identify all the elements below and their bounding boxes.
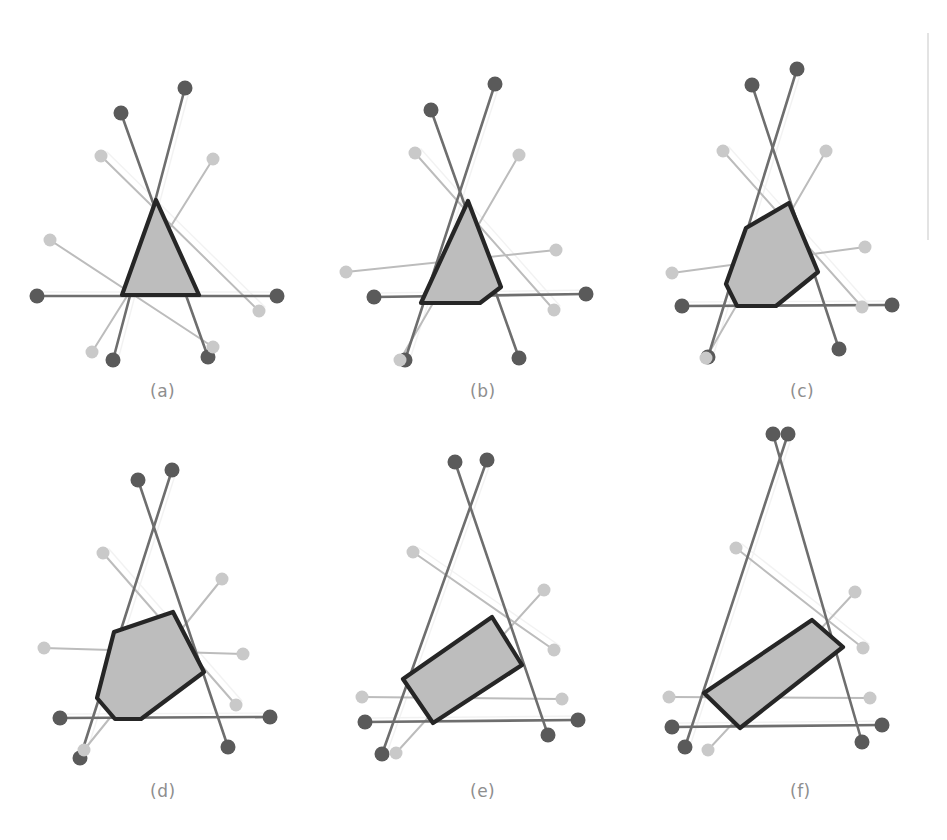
endpoint-dot-dark [745,78,760,93]
endpoint-dot-light [663,691,676,704]
endpoint-dot-dark [448,455,463,470]
panel-caption-b: (b) [470,381,496,401]
endpoint-dot-dark [678,740,693,755]
endpoint-dot-light [538,584,551,597]
endpoint-dot-light [666,267,679,280]
endpoint-dot-light [548,644,561,657]
panel-caption-a: (a) [150,381,175,401]
endpoint-dot-light [857,642,870,655]
endpoint-dot-dark [424,103,439,118]
endpoint-dot-light [513,149,526,162]
multi-panel-geometry-figure [0,0,947,840]
endpoint-dot-light [97,547,110,560]
panel-caption-d: (d) [150,781,176,801]
endpoint-dot-light [216,573,229,586]
endpoint-dot-light [38,642,51,655]
endpoint-dot-light [856,301,869,314]
endpoint-dot-dark [221,740,236,755]
endpoint-dot-dark [832,342,847,357]
endpoint-dot-dark [790,62,805,77]
ghost-line [66,713,276,714]
endpoint-dot-light [548,304,561,317]
endpoint-dot-dark [665,720,680,735]
endpoint-dot-dark [131,473,146,488]
endpoint-dot-light [820,145,833,158]
endpoint-dot-dark [488,77,503,92]
endpoint-dot-dark [375,747,390,762]
endpoint-dot-light [253,305,266,318]
endpoint-dot-dark [675,299,690,314]
endpoint-dot-dark [579,287,594,302]
endpoint-dot-light [207,153,220,166]
endpoint-dot-dark [270,289,285,304]
endpoint-dot-dark [358,715,373,730]
endpoint-dot-light [409,147,422,160]
endpoint-dot-light [394,354,407,367]
endpoint-dot-light [78,744,91,757]
endpoint-dot-light [340,266,353,279]
endpoint-dot-light [730,542,743,555]
endpoint-dot-dark [541,728,556,743]
panel-caption-e: (e) [470,781,495,801]
endpoint-dot-light [864,692,877,705]
endpoint-dot-light [849,586,862,599]
endpoint-dot-light [237,648,250,661]
endpoint-dot-dark [165,463,180,478]
endpoint-dot-dark [30,289,45,304]
panel-caption-c: (c) [790,381,814,401]
endpoint-dot-dark [571,713,586,728]
endpoint-dot-light [550,244,563,257]
endpoint-dot-light [86,346,99,359]
dark-seg-3 [60,717,270,718]
endpoint-dot-dark [178,81,193,96]
endpoint-dot-dark [885,298,900,313]
endpoint-dot-light [556,693,569,706]
endpoint-dot-dark [766,427,781,442]
endpoint-dot-light [717,145,730,158]
endpoint-dot-light [207,341,220,354]
endpoint-dot-dark [114,106,129,121]
endpoint-dot-light [702,744,715,757]
endpoint-dot-light [390,747,403,760]
endpoint-dot-dark [855,735,870,750]
endpoint-dot-dark [480,453,495,468]
endpoint-dot-light [230,699,243,712]
endpoint-dot-dark [263,710,278,725]
endpoint-dot-light [859,241,872,254]
endpoint-dot-light [95,150,108,163]
endpoint-dot-light [407,546,420,559]
endpoint-dot-dark [53,711,68,726]
endpoint-dot-dark [781,427,796,442]
panel-caption-f: (f) [790,781,811,801]
endpoint-dot-light [44,234,57,247]
endpoint-dot-light [356,691,369,704]
endpoint-dot-dark [512,351,527,366]
endpoint-dot-dark [106,353,121,368]
endpoint-dot-dark [367,290,382,305]
endpoint-dot-light [700,352,713,365]
endpoint-dot-dark [875,718,890,733]
